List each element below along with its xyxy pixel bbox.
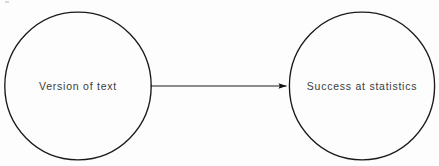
node-label-success-at-statistics: Success at statistics bbox=[307, 81, 417, 93]
scan-speck-artifact bbox=[5, 1, 9, 3]
diagram-canvas: Version of text Success at statistics bbox=[0, 0, 439, 166]
node-label-version-of-text: Version of text bbox=[39, 81, 117, 93]
